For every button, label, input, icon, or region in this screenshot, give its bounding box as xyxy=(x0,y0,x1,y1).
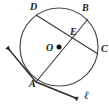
geometry-canvas xyxy=(0,0,109,111)
line-l-lower-ray xyxy=(36,82,78,99)
point-label-b: B xyxy=(82,3,89,13)
chord-a-to-b xyxy=(36,19,88,82)
circle-geometry-figure: D B E O C A ℓ xyxy=(0,0,109,111)
point-label-e: E xyxy=(70,27,77,37)
point-label-c: C xyxy=(101,44,108,54)
center-label-o: O xyxy=(46,43,53,53)
center-point-dot xyxy=(57,45,62,50)
point-label-d: D xyxy=(30,2,37,12)
point-label-a: A xyxy=(29,79,36,89)
line-label-l: ℓ xyxy=(84,91,89,101)
line-l-upper-ray xyxy=(7,47,36,82)
